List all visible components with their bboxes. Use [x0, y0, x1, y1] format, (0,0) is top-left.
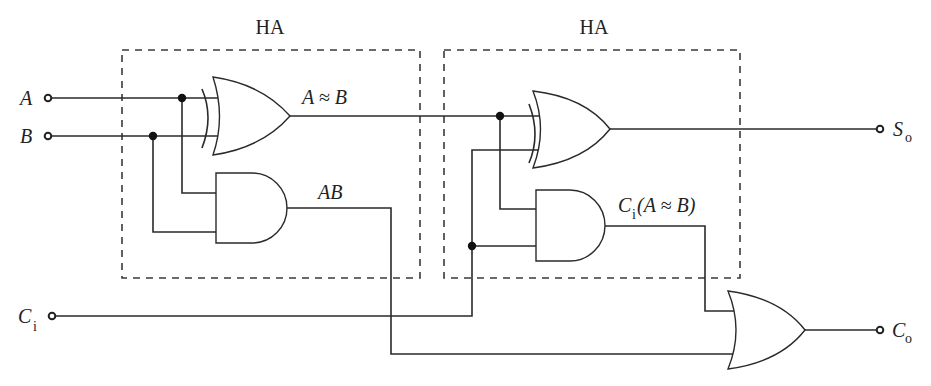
and-gate-1-icon: [216, 173, 287, 243]
junction-b-icon: [149, 132, 157, 140]
output-co-subscript: o: [905, 331, 912, 346]
or-gate-icon: [728, 291, 805, 369]
input-ci: C i: [18, 305, 55, 334]
wire-and2-out-to-or: [605, 226, 736, 311]
wire-a-to-and1: [182, 98, 216, 193]
and-gate-2-icon: [536, 190, 605, 261]
junction-axb-icon: [496, 112, 504, 120]
xor1-output-label: A ≈ B: [300, 86, 347, 108]
junction-ci-icon: [468, 242, 476, 250]
output-co: C o: [877, 319, 912, 346]
input-a: A: [18, 87, 226, 109]
wire-and1-out-to-or: [287, 208, 736, 354]
and2-output-label-rest: (A ≈ B): [637, 194, 696, 217]
input-b-label: B: [20, 125, 32, 147]
input-ci-subscript: i: [33, 319, 37, 334]
input-ci-terminal-icon: [49, 313, 56, 320]
output-so-subscript: o: [905, 130, 912, 145]
ha1-label: HA: [256, 16, 285, 38]
input-a-terminal-icon: [45, 95, 52, 102]
output-so-terminal-icon: [877, 126, 884, 133]
input-ci-label: C: [18, 305, 32, 327]
output-so-label: S: [893, 118, 903, 140]
wire-ci: [56, 150, 551, 316]
input-a-label: A: [18, 87, 33, 109]
output-co-terminal-icon: [877, 327, 884, 334]
xor-gate-2-icon: [529, 91, 610, 168]
and2-output-label-subscript: i: [632, 207, 636, 222]
and1-output-label: AB: [316, 181, 342, 203]
wire-b-to-and1: [153, 136, 216, 232]
output-co-label: C: [892, 319, 906, 341]
output-so: S o: [877, 118, 912, 145]
input-b: B: [20, 125, 226, 147]
wire-xor1out-to-and2: [500, 116, 536, 209]
half-adder-block-1: HA: [122, 16, 420, 278]
ha2-label: HA: [580, 16, 609, 38]
full-adder-diagram: HA HA A B A ≈ B AB C i: [0, 0, 931, 386]
and2-output-label-prefix: C: [618, 194, 632, 216]
xor-gate-1-icon: [202, 77, 290, 155]
ha1-boundary: [122, 50, 420, 278]
input-b-terminal-icon: [45, 133, 52, 140]
junction-a-icon: [178, 94, 186, 102]
